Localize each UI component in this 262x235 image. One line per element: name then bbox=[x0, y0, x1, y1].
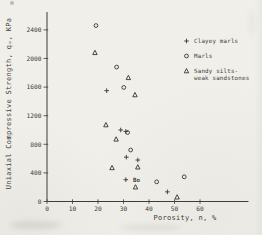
circle-marker-icon bbox=[182, 51, 191, 60]
legend-item: Sandy silts-weak sandstones bbox=[182, 68, 252, 84]
data-point bbox=[94, 24, 98, 28]
data-point bbox=[126, 75, 130, 79]
data-point bbox=[136, 165, 140, 169]
y-tick-label: 2400 bbox=[27, 26, 42, 33]
data-point bbox=[133, 92, 137, 96]
point-annotation: Bo bbox=[133, 177, 140, 183]
data-point bbox=[104, 88, 109, 93]
y-tick-label: 800 bbox=[30, 141, 41, 148]
x-tick-label: 10 bbox=[69, 205, 77, 212]
x-tick-label: 60 bbox=[196, 205, 204, 212]
data-point bbox=[124, 155, 129, 160]
legend-label: Clayey marls bbox=[194, 38, 252, 46]
data-point bbox=[129, 148, 133, 152]
data-point bbox=[133, 185, 137, 189]
data-point bbox=[110, 165, 114, 169]
y-tick-label: 0 bbox=[38, 198, 42, 205]
y-tick-label: 2000 bbox=[27, 55, 42, 62]
data-point bbox=[114, 137, 118, 141]
data-point bbox=[93, 50, 97, 54]
data-point bbox=[115, 65, 119, 69]
data-point bbox=[182, 175, 186, 179]
data-point bbox=[124, 177, 129, 182]
plus-marker-icon bbox=[182, 36, 191, 45]
y-tick-label: 400 bbox=[30, 169, 41, 176]
plot-area: 010203040506004008001200160020002400Bo bbox=[0, 0, 262, 235]
data-point bbox=[175, 195, 179, 199]
data-point bbox=[122, 86, 126, 90]
legend-item: Marls bbox=[182, 53, 252, 61]
x-axis-title: Porosity, n, % bbox=[124, 214, 246, 222]
figure-scatter-plot: Uniaxial Compressive Strength, qᵤ, KPa 0… bbox=[0, 0, 262, 235]
data-point bbox=[118, 128, 123, 133]
data-point bbox=[155, 180, 159, 184]
y-tick-label: 1600 bbox=[27, 83, 42, 90]
x-tick-label: 0 bbox=[45, 205, 49, 212]
legend-label: Marls bbox=[194, 53, 252, 61]
legend: Clayey marlsMarlsSandy silts-weak sandst… bbox=[182, 38, 252, 83]
data-point bbox=[165, 190, 170, 195]
y-tick-label: 1200 bbox=[27, 112, 42, 119]
x-tick-label: 40 bbox=[145, 205, 153, 212]
x-tick-label: 20 bbox=[94, 205, 102, 212]
data-point bbox=[136, 158, 141, 163]
data-point bbox=[104, 122, 108, 126]
triangle-marker-icon bbox=[182, 66, 191, 75]
legend-label: Sandy silts-weak sandstones bbox=[194, 68, 252, 84]
x-tick-label: 30 bbox=[120, 205, 128, 212]
x-tick-label: 50 bbox=[171, 205, 179, 212]
legend-item: Clayey marls bbox=[182, 38, 252, 46]
